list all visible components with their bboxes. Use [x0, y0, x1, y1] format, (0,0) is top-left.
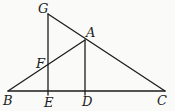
geometry-figure: GAFBEDC: [0, 0, 175, 111]
point-label-E: E: [43, 95, 54, 110]
geometry-diagram: GAFBEDC: [0, 0, 175, 111]
point-label-C: C: [157, 93, 167, 108]
point-label-F: F: [35, 56, 46, 71]
point-label-G: G: [38, 1, 48, 16]
point-label-D: D: [81, 94, 93, 109]
point-label-A: A: [85, 25, 95, 40]
point-label-B: B: [2, 93, 13, 108]
segment-line-BA: [8, 40, 85, 91]
